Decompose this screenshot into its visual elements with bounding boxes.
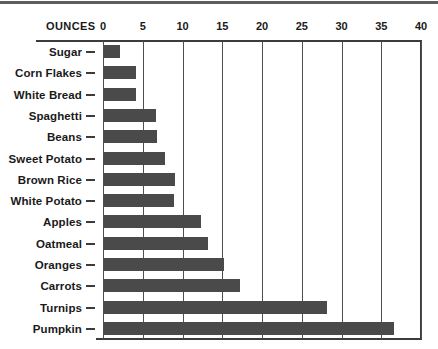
x-tick-label-30: 30	[327, 20, 357, 32]
category-label-column: SugarCorn FlakesWhite BreadSpaghettiBean…	[0, 41, 96, 339]
category-label-sugar: Sugar	[49, 45, 82, 59]
category-connector-apples	[86, 221, 95, 223]
category-connector-sugar	[86, 51, 95, 53]
bar-white-bread	[104, 88, 136, 101]
x-tick-label-10: 10	[168, 20, 198, 32]
bar-corn-flakes	[104, 66, 136, 79]
bar-spaghetti	[104, 109, 156, 122]
category-connector-oranges	[86, 264, 95, 266]
x-tick-label-25: 25	[287, 20, 317, 32]
gridline-35	[381, 41, 382, 339]
category-label-beans: Beans	[47, 130, 82, 144]
gridline-40	[421, 41, 422, 339]
bar-beans	[104, 130, 157, 143]
gridline-10	[183, 41, 184, 339]
bar-turnips	[104, 301, 327, 314]
gridline-20	[262, 41, 263, 339]
category-connector-corn-flakes	[86, 72, 95, 74]
category-label-apples: Apples	[43, 215, 82, 229]
bar-white-potato	[104, 194, 174, 207]
bar-apples	[104, 215, 201, 228]
gridline-15	[222, 41, 223, 339]
category-label-white-potato: White Potato	[11, 194, 82, 208]
category-label-sweet-potato: Sweet Potato	[9, 152, 82, 166]
x-tick-label-5: 5	[128, 20, 158, 32]
category-label-pumpkin: Pumpkin	[33, 322, 82, 336]
category-connector-spaghetti	[86, 115, 95, 117]
gridline-25	[302, 41, 303, 339]
category-label-corn-flakes: Corn Flakes	[15, 66, 82, 80]
category-connector-beans	[86, 136, 95, 138]
category-label-oranges: Oranges	[35, 258, 82, 272]
category-connector-white-bread	[86, 94, 95, 96]
category-connector-sweet-potato	[86, 158, 95, 160]
bar-oranges	[104, 258, 224, 271]
bar-sweet-potato	[104, 152, 165, 165]
x-tick-label-15: 15	[207, 20, 237, 32]
category-label-brown-rice: Brown Rice	[18, 173, 82, 187]
bar-brown-rice	[104, 173, 175, 186]
category-label-oatmeal: Oatmeal	[36, 237, 82, 251]
gridline-30	[342, 41, 343, 339]
bar-carrots	[104, 279, 240, 292]
x-tick-label-40: 40	[406, 20, 436, 32]
plot-area	[103, 41, 421, 339]
category-connector-turnips	[86, 307, 95, 309]
x-tick-label-35: 35	[366, 20, 396, 32]
category-label-white-bread: White Bread	[14, 88, 82, 102]
ounces-bar-chart: OUNCES 0510152025303540 SugarCorn Flakes…	[0, 0, 438, 349]
category-connector-pumpkin	[86, 328, 95, 330]
category-connector-carrots	[86, 285, 95, 287]
category-connector-oatmeal	[86, 243, 95, 245]
bar-sugar	[104, 45, 120, 58]
x-tick-label-0: 0	[88, 20, 118, 32]
bar-pumpkin	[104, 322, 394, 335]
category-label-carrots: Carrots	[40, 279, 82, 293]
category-connector-brown-rice	[86, 179, 95, 181]
gridline-5	[143, 41, 144, 339]
category-connector-white-potato	[86, 200, 95, 202]
category-label-turnips: Turnips	[40, 301, 82, 315]
gridline-0	[103, 41, 104, 339]
x-tick-label-20: 20	[247, 20, 277, 32]
category-label-spaghetti: Spaghetti	[29, 109, 82, 123]
bar-oatmeal	[104, 237, 208, 250]
